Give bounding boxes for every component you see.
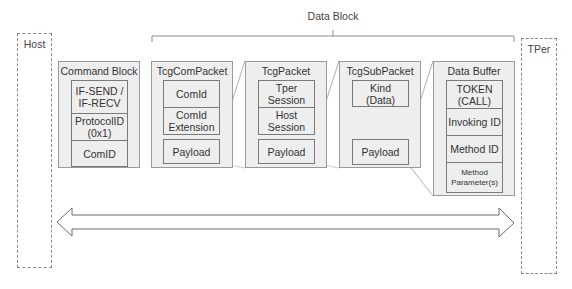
field-token-call: TOKEN (CALL) [446,80,503,109]
tper-box: TPer [521,38,557,274]
field-invoking-id: Invoking ID [446,109,503,136]
tper-label: TPer [522,43,556,55]
command-block: Command Block IF-SEND / IF-RECV Protocol… [58,61,140,168]
field-payload: Payload [352,139,409,165]
data-block-label: Data Block [293,10,373,22]
field-payload: Payload [163,139,220,164]
data-buffer-title: Data Buffer [434,65,514,77]
field-method-parameters: Method Parameter(s) [446,163,503,193]
host-box: Host [17,33,52,268]
tcg-com-packet-fields: ComId ComId Extension [163,80,220,135]
data-block-brace [152,30,514,42]
field-comid: ComID [71,141,128,167]
field-method-id: Method ID [446,136,503,163]
tcg-packet-title: TcgPacket [246,65,326,77]
host-label: Host [18,38,51,50]
field-kind: Kind (Data) [352,80,409,107]
data-buffer-fields: TOKEN (CALL) Invoking ID Method ID Metho… [446,80,503,193]
command-block-fields: IF-SEND / IF-RECV ProtocolID (0x1) ComID [71,80,128,167]
data-buffer: Data Buffer TOKEN (CALL) Invoking ID Met… [433,61,515,196]
tcg-sub-packet: TcgSubPacket Kind (Data) Payload [339,61,421,168]
bidirectional-arrow-icon [57,208,514,237]
field-tper-session: Tper Session [258,80,315,108]
connector-line [408,164,433,196]
command-block-title: Command Block [59,65,139,77]
field-comid: ComId [163,80,220,108]
tcg-packet: TcgPacket Tper Session Host Session Payl… [245,61,327,168]
tcg-com-packet: TcgComPacket ComId ComId Extension Paylo… [151,61,233,168]
field-payload: Payload [258,139,315,164]
field-if-send-recv: IF-SEND / IF-RECV [71,80,128,114]
field-comid-extension: ComId Extension [163,108,220,135]
field-host-session: Host Session [258,108,315,135]
tcg-com-packet-title: TcgComPacket [152,65,232,77]
tcg-sub-packet-title: TcgSubPacket [340,65,420,77]
field-protocol-id: ProtocolID (0x1) [71,114,128,141]
tcg-packet-fields: Tper Session Host Session [258,80,315,135]
